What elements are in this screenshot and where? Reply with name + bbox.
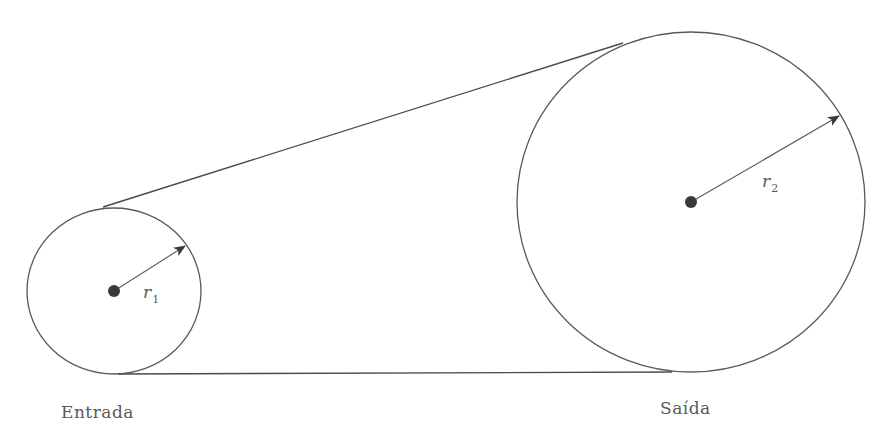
input-pulley: r1: [27, 208, 201, 374]
radius-label-r1: r1: [143, 282, 159, 306]
belt-upper-segment: [103, 43, 623, 207]
diagram-svg: r1 r2 Entrada Saída: [0, 0, 885, 437]
output-pulley: r2: [517, 32, 865, 372]
input-caption: Entrada: [61, 402, 134, 422]
input-axle-dot: [108, 285, 120, 297]
radius-label-r2: r2: [762, 171, 778, 195]
belt-pulley-diagram: r1 r2 Entrada Saída: [0, 0, 885, 437]
belt: [103, 43, 672, 374]
output-axle-dot: [685, 196, 697, 208]
belt-lower-segment: [118, 372, 672, 374]
output-caption: Saída: [660, 398, 711, 418]
